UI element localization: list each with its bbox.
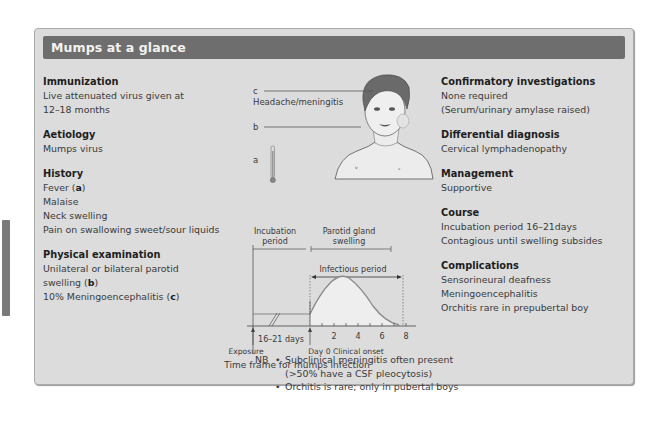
mumps-timeline-chart: Incubation period Parotid gland swelling…: [223, 227, 416, 370]
chapter-tab: [2, 220, 10, 316]
label-a: a: [253, 155, 258, 165]
nb-item: Orchitis is rare; only in pubertal boys: [285, 380, 458, 394]
tick-label: 8: [403, 332, 408, 341]
parotid-swelling-label: Parotid gland: [323, 227, 376, 236]
nb-notes: NB•Subclinical meningitis often present …: [255, 353, 458, 394]
days-label: 16–21 days: [258, 335, 304, 344]
nb-item: Subclinical meningitis often present: [285, 353, 453, 367]
nb-item: (>50% have a CSF pleocytosis): [285, 367, 432, 381]
label-b: b: [253, 122, 258, 132]
mumps-summary-panel: Mumps at a glance Immunization Live atte…: [34, 28, 634, 385]
parotid-swelling-label-2: swelling: [333, 237, 365, 246]
svg-text:ᵥ: ᵥ: [355, 163, 358, 171]
thermometer-icon: [270, 146, 275, 183]
incubation-label: Incubation: [254, 227, 296, 236]
center-figure: ᵥ ᵛ c Headache/meningitis b a Incubation…: [35, 29, 633, 384]
headache-meningitis-label: Headache/meningitis: [253, 97, 344, 107]
infectious-period-label: Infectious period: [319, 265, 386, 274]
tick-label: 6: [379, 332, 384, 341]
incubation-label-2: period: [262, 237, 287, 246]
tick-label: 2: [331, 332, 336, 341]
label-c: c: [253, 86, 258, 96]
nb-label: NB: [255, 353, 275, 367]
tick-label: 4: [355, 332, 360, 341]
